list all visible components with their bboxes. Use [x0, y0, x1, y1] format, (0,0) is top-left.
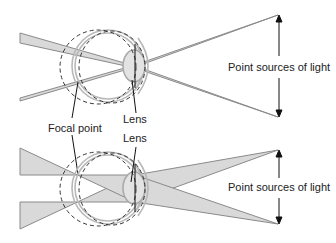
top-lens-label: Lens [123, 114, 147, 125]
bottom-lens-label: Lens [123, 133, 147, 144]
bottom-point-sources-label: Point sources of light [228, 182, 330, 193]
top-eye [72, 30, 148, 102]
focal-point-leader-top [72, 82, 78, 118]
top-point-sources-label: Point sources of light [228, 62, 330, 73]
focal-point-label: Focal point [48, 123, 102, 134]
